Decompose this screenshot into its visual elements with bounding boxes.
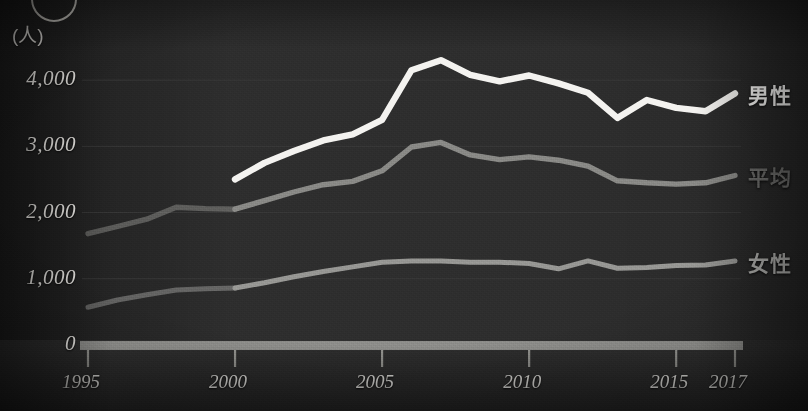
y-axis-unit-label: (人) <box>12 20 44 47</box>
y-tick-0: 0 <box>65 331 76 356</box>
x-tick-2015: 2015 <box>650 371 688 393</box>
plot-area <box>0 0 808 411</box>
x-tick-2010: 2010 <box>503 371 541 393</box>
y-tick-4000: 4,000 <box>26 66 76 91</box>
x-tick-2000: 2000 <box>209 371 247 393</box>
x-tick-2005: 2005 <box>356 371 394 393</box>
x-tick-1995: 1995 <box>62 371 100 393</box>
series-label-female: 女性 <box>748 247 792 277</box>
series-label-male: 男性 <box>748 79 792 109</box>
y-tick-1000: 1,000 <box>26 265 76 290</box>
x-axis <box>80 341 743 367</box>
line-chart: (人) 4,0003,0002,0001,0000 19952000200520… <box>0 0 808 411</box>
x-tick-2017: 2017 <box>709 371 747 393</box>
gridlines <box>82 80 741 279</box>
series-label-average: 平均 <box>748 161 792 191</box>
y-tick-3000: 3,000 <box>26 132 76 157</box>
y-tick-2000: 2,000 <box>26 199 76 224</box>
series-lines <box>88 60 735 307</box>
